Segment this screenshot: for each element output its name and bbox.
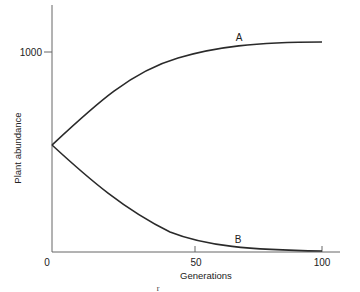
footer-mark: r — [157, 284, 160, 292]
x-tick-label-100: 100 — [314, 257, 331, 268]
series-b-label: B — [235, 234, 242, 245]
y-tick-label-1000: 1000 — [20, 47, 43, 58]
series-b-line — [52, 145, 322, 251]
x-tick-label-50: 50 — [190, 257, 202, 268]
series-a-label: A — [236, 32, 243, 43]
y-axis-label: Plant abundance — [12, 112, 23, 183]
series-a-line — [52, 42, 322, 145]
x-tick-label-0: 0 — [44, 257, 50, 268]
x-axis-label: Generations — [180, 270, 232, 281]
chart: 1000 0 50 100 Generations Plant abundanc… — [0, 0, 360, 292]
